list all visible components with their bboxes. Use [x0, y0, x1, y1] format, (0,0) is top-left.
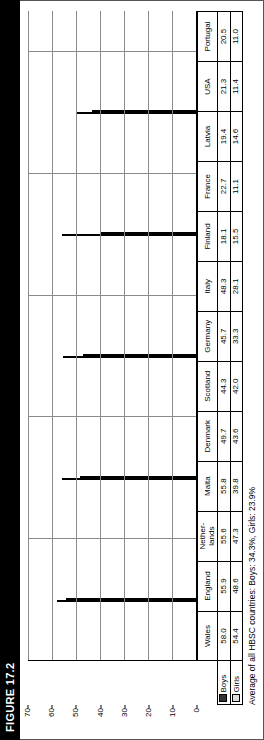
- y-axis-tick-label: 10: [169, 708, 177, 717]
- table-column-header: France: [198, 161, 218, 211]
- data-table: WalesEnglandNether-landsMaltaDenmarkScot…: [197, 11, 243, 731]
- bar-group: [28, 416, 196, 538]
- rotated-page-stage: FIGURE 17.2 706050403020100 Wal: [0, 0, 264, 740]
- table-cell-boys: 18.1: [218, 211, 230, 261]
- y-axis-tick-label: 60: [48, 708, 56, 717]
- table-column-header: Denmark: [198, 411, 218, 461]
- table-column-header: Portugal: [198, 12, 218, 62]
- figure-caption: Average of all HBSC countries: Boys: 34.…: [247, 11, 257, 731]
- table-cell-boys: 49.7: [218, 411, 230, 461]
- legend-boys-swatch-icon: [219, 695, 227, 703]
- bar-group: [28, 51, 196, 173]
- y-axis-tick-label: 40: [97, 708, 105, 717]
- legend-boys: Boys: [218, 661, 230, 705]
- y-axis-tick-mark: [124, 705, 125, 708]
- gridline: [28, 11, 29, 660]
- table-cell-girls: 42.0: [230, 361, 242, 411]
- bar-boys: [57, 600, 197, 602]
- y-axis-tick-label: 50: [72, 708, 80, 717]
- bar-boys: [77, 112, 197, 114]
- table-cell-boys: 21.3: [218, 62, 230, 112]
- bar-group: [28, 295, 196, 417]
- legend-boys-label: Boys: [219, 675, 228, 693]
- plot-row: 706050403020100: [28, 11, 197, 731]
- y-axis-tick-mark: [173, 705, 174, 708]
- y-axis-tick-mark: [52, 705, 53, 708]
- y-axis-tick-mark: [197, 705, 198, 708]
- bar-group: [28, 538, 196, 660]
- gridline: [76, 11, 77, 660]
- legend-girls-label: Girls: [232, 676, 241, 692]
- table-cell-boys: 55.8: [218, 461, 230, 511]
- gridline: [124, 11, 125, 660]
- y-axis-tick-mark: [28, 705, 29, 708]
- table-cell-girls: 15.5: [230, 211, 242, 261]
- y-axis-tick-label: 0: [193, 708, 201, 712]
- table-cell-girls: 54.4: [230, 611, 242, 661]
- table-column-header: Scotland: [198, 361, 218, 411]
- table-cell-boys: 58.0: [218, 611, 230, 661]
- table-cell-girls: 47.3: [230, 511, 242, 561]
- gridline: [172, 11, 173, 660]
- table-column-header: Germany: [198, 311, 218, 361]
- bar-group: [28, 173, 196, 295]
- table-cell-girls: 11.0: [230, 12, 242, 62]
- y-axis-tick-label: 30: [121, 708, 129, 717]
- figure-banner-label: FIGURE 17.2: [4, 663, 16, 732]
- y-axis: 706050403020100: [28, 705, 197, 731]
- table-column-header: Wales: [198, 611, 218, 661]
- y-axis-tick-mark: [76, 705, 77, 708]
- table-cell-boys: 48.3: [218, 261, 230, 311]
- category-columns: [28, 11, 196, 660]
- table-column-header: England: [198, 561, 218, 611]
- chart: 706050403020100 WalesEnglandNether-lands…: [28, 11, 257, 731]
- legend-girls-swatch-icon: [232, 695, 240, 703]
- table-cell-girls: 33.3: [230, 311, 242, 361]
- bar-boys: [62, 234, 196, 236]
- y-axis-tick-label: 70: [24, 708, 32, 717]
- bar-boys: [62, 478, 197, 480]
- table-column-header: Finland: [198, 211, 218, 261]
- table-cell-girls: 43.6: [230, 411, 242, 461]
- table-cell-girls: 28.1: [230, 261, 242, 311]
- table-lead-pad: [218, 705, 230, 731]
- table-cell-boys: 22.7: [218, 161, 230, 211]
- table-column-header: Italy: [198, 261, 218, 311]
- table-header-row: WalesEnglandNether-landsMaltaDenmarkScot…: [198, 12, 218, 732]
- gridline: [148, 11, 149, 660]
- gridline: [52, 11, 53, 660]
- table-column-header: Nether-lands: [198, 511, 218, 561]
- table-cell-boys: 20.5: [218, 12, 230, 62]
- table-cell-girls: 48.6: [230, 561, 242, 611]
- row-header-spacer: [28, 661, 197, 705]
- bar-girls: [92, 110, 197, 112]
- table-cell-girls: 39.8: [230, 461, 242, 511]
- gridline: [100, 11, 101, 660]
- table-cell-boys: 45.7: [218, 311, 230, 361]
- table-lead-pad: [230, 705, 242, 731]
- table-column-header: Latvia: [198, 112, 218, 162]
- figure-body: 706050403020100 WalesEnglandNether-lands…: [20, 0, 264, 740]
- table-cell-girls: 14.6: [230, 112, 242, 162]
- bar-boys: [63, 356, 197, 358]
- table-row-girls: Girls 54.448.647.339.843.642.033.328.115…: [230, 12, 242, 732]
- bar-girls: [80, 476, 197, 478]
- bar-group: [28, 0, 196, 51]
- bar-girls: [66, 598, 197, 600]
- table-cell-boys: 55.9: [218, 561, 230, 611]
- y-axis-tick-mark: [149, 705, 150, 708]
- y-axis-tick-label: 20: [145, 708, 153, 717]
- table-cell-boys: 44.3: [218, 361, 230, 411]
- table-row-boys: Boys 58.055.955.655.849.744.345.748.318.…: [218, 12, 230, 732]
- legend-girls: Girls: [230, 661, 242, 705]
- plot-area: [28, 11, 197, 661]
- table-column-header: Malta: [198, 461, 218, 511]
- table-corner-cell: [198, 661, 218, 705]
- table-cell-girls: 11.1: [230, 161, 242, 211]
- figure-card: FIGURE 17.2 706050403020100 Wal: [0, 0, 264, 740]
- figure-banner: FIGURE 17.2: [0, 0, 20, 740]
- table-column-header: USA: [198, 62, 218, 112]
- table-cell-girls: 11.4: [230, 62, 242, 112]
- table-cell-boys: 55.6: [218, 511, 230, 561]
- y-axis-tick-mark: [100, 705, 101, 708]
